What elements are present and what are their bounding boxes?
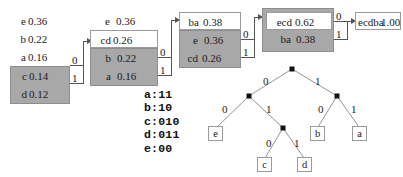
tree-node-left-right bbox=[281, 126, 286, 131]
tree-edge-l-left bbox=[216, 96, 249, 128]
tree-node-root bbox=[290, 67, 295, 72]
huffman-tree bbox=[0, 0, 403, 177]
tree-leaf-c: c bbox=[257, 157, 272, 172]
tree-edge-label-l-right: 1 bbox=[266, 104, 272, 115]
tree-edge-label-root-right: 1 bbox=[315, 76, 321, 87]
tree-leaf-b: b bbox=[310, 126, 325, 141]
tree-edge-label-root-left: 0 bbox=[263, 76, 269, 87]
tree-leaf-e: e bbox=[208, 126, 223, 141]
tree-edge-label-r-right: 1 bbox=[351, 104, 357, 115]
tree-edge-root-left bbox=[249, 69, 292, 96]
tree-edge-label-lr-left: 0 bbox=[266, 138, 272, 149]
tree-leaf-a: a bbox=[352, 126, 367, 141]
tree-edge-label-r-left: 0 bbox=[318, 104, 324, 115]
tree-leaf-d: d bbox=[297, 157, 312, 172]
huffman-diagram: e 0.36 b 0.22 a 0.16 c 0.14 d 0.12 0 1 bbox=[0, 0, 403, 177]
tree-node-right bbox=[335, 94, 340, 99]
tree-edge-label-lr-right: 1 bbox=[294, 138, 300, 149]
tree-node-left bbox=[247, 94, 252, 99]
tree-edge-label-l-left: 0 bbox=[222, 104, 228, 115]
